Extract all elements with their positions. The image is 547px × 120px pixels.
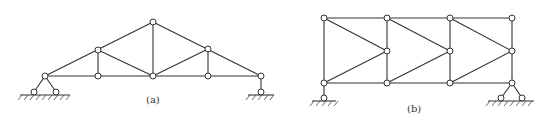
truss-figure: (a)	[0, 0, 547, 120]
label-a: (a)	[146, 94, 160, 105]
truss-b: (b)	[310, 15, 534, 114]
truss-a: (a)	[18, 19, 274, 105]
label-b: (b)	[407, 103, 421, 114]
